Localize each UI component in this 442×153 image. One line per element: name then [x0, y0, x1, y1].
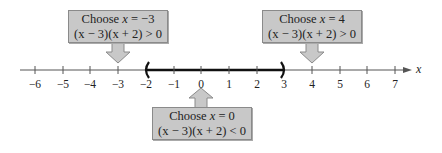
- tick-label: −2: [140, 78, 152, 90]
- callout-right: Choose x = 4 (x − 3)(x + 2) > 0: [262, 10, 362, 43]
- callout-right-arrow-icon: [300, 42, 324, 63]
- tick-label: 4: [309, 78, 315, 90]
- tick-label: 7: [392, 78, 398, 90]
- callout-middle-expression: (x − 3)(x + 2) < 0: [153, 124, 251, 139]
- tick-label: −5: [57, 78, 69, 90]
- tick-label: 2: [254, 78, 260, 90]
- callout-left-choose: Choose x = −3: [69, 12, 167, 27]
- tick-label: 6: [364, 78, 370, 90]
- tick-label: −3: [112, 78, 124, 90]
- axis-arrow-icon: [403, 67, 412, 73]
- tick-label: 1: [226, 78, 232, 90]
- callout-right-choose: Choose x = 4: [263, 12, 361, 27]
- callout-middle: Choose x = 0 (x − 3)(x + 2) < 0: [152, 107, 252, 140]
- callout-right-expression: (x − 3)(x + 2) > 0: [263, 27, 361, 42]
- axis-variable-label: x: [416, 62, 421, 77]
- tick-label: 5: [337, 78, 343, 90]
- tick-label: −4: [84, 78, 96, 90]
- callout-left-arrow-icon: [106, 42, 130, 63]
- tick-label: −1: [168, 78, 180, 90]
- callout-middle-choose: Choose x = 0: [153, 109, 251, 124]
- tick-label: 3: [281, 78, 287, 90]
- callout-middle-arrow-icon: [189, 88, 213, 108]
- tick-label: −6: [29, 78, 41, 90]
- callout-left: Choose x = −3 (x − 3)(x + 2) > 0: [68, 10, 168, 43]
- tick-label: 0: [198, 78, 204, 90]
- callout-left-expression: (x − 3)(x + 2) > 0: [69, 27, 167, 42]
